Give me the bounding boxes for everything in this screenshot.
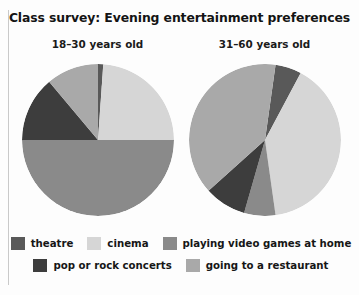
- legend: theatre cinema playing video games at ho…: [14, 232, 348, 276]
- pie-chart-31-60: [189, 64, 341, 216]
- legend-row-2: pop or rock concerts going to a restaura…: [14, 254, 348, 276]
- pie-slice: [22, 140, 174, 216]
- figure-left-rule: [8, 10, 9, 285]
- legend-swatch-cinema: [87, 237, 101, 250]
- chart-subtitle-left: 18–30 years old: [14, 38, 181, 50]
- figure-container: Class survey: Evening entertainment pref…: [0, 0, 359, 295]
- pie-chart-18-30: [22, 64, 174, 216]
- legend-item-pop-rock: pop or rock concerts: [33, 259, 171, 272]
- legend-swatch-theatre: [11, 237, 25, 250]
- pie-chart-cell-18-30: [14, 58, 181, 228]
- pie-slice: [98, 64, 174, 140]
- legend-item-cinema: cinema: [87, 237, 148, 250]
- legend-swatch-pop-rock: [33, 259, 47, 272]
- legend-item-restaurant: going to a restaurant: [186, 259, 329, 272]
- legend-label-restaurant: going to a restaurant: [206, 260, 329, 271]
- figure-title: Class survey: Evening entertainment pref…: [0, 10, 359, 25]
- chart-subtitle-right: 31–60 years old: [181, 38, 348, 50]
- legend-item-video-games: playing video games at home: [163, 237, 352, 250]
- legend-label-video-games: playing video games at home: [183, 238, 352, 249]
- legend-label-cinema: cinema: [107, 238, 148, 249]
- chart-subtitles: 18–30 years old 31–60 years old: [14, 38, 348, 50]
- pie-chart-cell-31-60: [181, 58, 348, 228]
- legend-label-pop-rock: pop or rock concerts: [53, 260, 171, 271]
- legend-label-theatre: theatre: [31, 238, 74, 249]
- legend-swatch-restaurant: [186, 259, 200, 272]
- charts-area: [14, 58, 348, 228]
- legend-row-1: theatre cinema playing video games at ho…: [14, 232, 348, 254]
- legend-swatch-video-games: [163, 237, 177, 250]
- legend-item-theatre: theatre: [11, 237, 74, 250]
